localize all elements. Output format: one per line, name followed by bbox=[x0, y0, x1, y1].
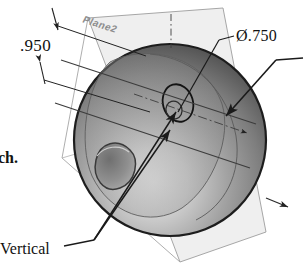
diameter-dimension-text[interactable]: Ø.750 bbox=[236, 27, 277, 45]
right-leader-shoulder bbox=[276, 58, 303, 60]
vertical-leader-shoulder bbox=[64, 240, 94, 246]
cad-illustration-canvas: .950 Ø.750 Vertical ch. Plane2 bbox=[0, 0, 304, 276]
dimple-feature bbox=[95, 143, 135, 189]
dim-arrow-top bbox=[52, 8, 58, 30]
plane-normal-arrow bbox=[266, 198, 288, 207]
vertical-relation-text[interactable]: Vertical bbox=[0, 240, 50, 258]
dim-arrow-bottom bbox=[40, 62, 45, 84]
clipped-body-text: ch. bbox=[0, 149, 18, 167]
sphere-solid[interactable] bbox=[74, 44, 266, 236]
height-dimension-text[interactable]: .950 bbox=[20, 36, 51, 56]
